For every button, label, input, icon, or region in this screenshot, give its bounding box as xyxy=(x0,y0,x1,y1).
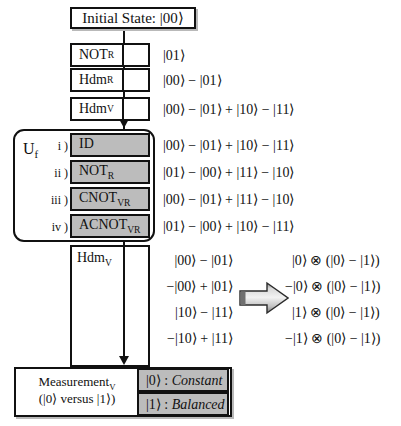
state-after-hdm-r: |00⟩ − |01⟩ xyxy=(163,72,222,89)
gate-subscript: R xyxy=(107,75,113,85)
initial-state-label: Initial State: |00⟩ xyxy=(82,9,184,27)
gate-name: ID xyxy=(79,136,94,151)
state-after-uf-case-iii: |00⟩ − |01⟩ + |11⟩ − |10⟩ xyxy=(163,191,294,208)
factored-state-3: |1⟩ ⊗ (|0⟩ − |1⟩) xyxy=(292,304,380,321)
factored-state-4: −|1⟩ ⊗ (|0⟩ − |1⟩) xyxy=(285,330,381,347)
uf-case-index-i: i ) xyxy=(40,139,68,154)
factored-state-2: −|0⟩ ⊗ (|0⟩ − |1⟩) xyxy=(285,278,381,295)
gate-name: Hdm xyxy=(79,72,107,88)
gate-name: CNOT xyxy=(79,190,117,205)
block-right-arrow-icon xyxy=(239,281,289,315)
uf-case-index-iii: iii ) xyxy=(36,193,68,208)
uf-gate-cnot-vr[interactable]: CNOTVR xyxy=(70,187,150,211)
down-arrow-icon-lower xyxy=(119,356,129,365)
gate-target-cell xyxy=(124,99,148,119)
final-hadamard-label: HdmV xyxy=(77,250,112,268)
state-after-uf-case-i: |00⟩ − |01⟩ + |10⟩ − |11⟩ xyxy=(163,137,294,154)
gate-subscript: R xyxy=(108,171,114,181)
gate-name: ACNOT xyxy=(79,217,127,232)
uf-label: Uf xyxy=(23,140,38,160)
final-state-3: |10⟩ − |11⟩ xyxy=(150,304,233,321)
gate-subscript: VR xyxy=(127,225,140,235)
outcome-verdict: Balanced xyxy=(172,397,225,412)
state-after-not-r: |01⟩ xyxy=(163,47,185,64)
quantum-circuit-diagram: Initial State: |00⟩ NOTR |01⟩ HdmR |00⟩ … xyxy=(0,0,401,426)
outcome-verdict: Constant xyxy=(172,373,223,388)
register-wire-lower xyxy=(123,240,125,358)
final-state-4: −|10⟩ + |11⟩ xyxy=(150,330,233,347)
measurement-outcome-constant: |0⟩ : Constant xyxy=(137,368,229,392)
gate-row-not-r[interactable]: NOTR xyxy=(70,43,150,67)
measurement-label-line1: MeasurementV xyxy=(18,375,136,392)
final-state-2: −|00⟩ + |01⟩ xyxy=(150,278,233,295)
uf-gate-id[interactable]: ID xyxy=(70,133,150,157)
gate-name: Hdm xyxy=(77,250,105,265)
outcome-separator: : xyxy=(161,397,172,412)
gate-row-hdm-r[interactable]: HdmR xyxy=(70,68,150,92)
final-state-1: |00⟩ − |01⟩ xyxy=(150,252,233,269)
gate-target-cell xyxy=(124,70,148,90)
uf-gate-not-r[interactable]: NOTR xyxy=(70,160,150,184)
measurement-outcome-balanced: |1⟩ : Balanced xyxy=(137,392,229,416)
measurement-label-line2: (|0⟩ versus |1⟩) xyxy=(18,392,136,407)
gate-label-cell: HdmV xyxy=(72,99,124,119)
factored-state-1: |0⟩ ⊗ (|0⟩ − |1⟩) xyxy=(292,252,380,269)
outcome-ket: |1⟩ xyxy=(146,397,161,412)
uf-case-index-iv: iv ) xyxy=(36,220,68,235)
gate-name: NOT xyxy=(79,163,108,178)
outcome-ket: |0⟩ xyxy=(146,373,161,388)
gate-name: NOT xyxy=(79,47,108,63)
gate-label-cell: HdmR xyxy=(72,70,124,90)
gate-subscript: V xyxy=(107,104,114,114)
outcome-separator: : xyxy=(161,373,172,388)
measurement-label-text: Measurement xyxy=(38,374,109,389)
gate-label-cell: NOTR xyxy=(72,45,124,65)
gate-row-hdm-v[interactable]: HdmV xyxy=(70,97,150,121)
initial-state-box: Initial State: |00⟩ xyxy=(70,7,196,29)
measurement-label: MeasurementV (|0⟩ versus |1⟩) xyxy=(18,375,136,407)
uf-gate-acnot-vr[interactable]: ACNOTVR xyxy=(70,214,150,238)
gate-target-cell xyxy=(124,45,148,65)
gate-name: Hdm xyxy=(79,101,107,117)
state-after-hdm-v: |00⟩ − |01⟩ + |10⟩ − |11⟩ xyxy=(163,101,294,118)
gate-subscript: VR xyxy=(117,198,130,208)
gate-subscript: R xyxy=(108,50,114,60)
state-after-uf-case-iv: |01⟩ − |00⟩ + |10⟩ − |11⟩ xyxy=(163,218,294,235)
uf-label-text: U xyxy=(23,140,35,157)
gate-subscript: V xyxy=(105,258,112,268)
uf-label-subscript: f xyxy=(35,148,39,160)
state-after-uf-case-ii: |01⟩ − |00⟩ + |11⟩ − |10⟩ xyxy=(163,164,294,181)
uf-case-index-ii: ii ) xyxy=(40,166,68,181)
